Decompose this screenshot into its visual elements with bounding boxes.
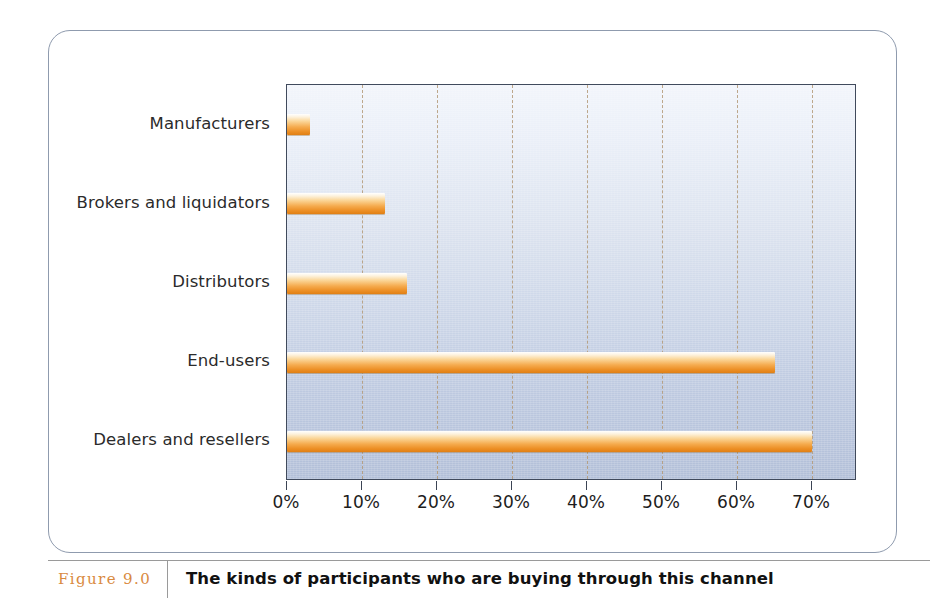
figure-caption: The kinds of participants who are buying… bbox=[186, 569, 774, 588]
x-tick-mark bbox=[661, 481, 662, 490]
gridline bbox=[737, 85, 738, 479]
bar bbox=[287, 431, 812, 452]
x-tick-label: 10% bbox=[326, 492, 396, 512]
x-tick-label: 40% bbox=[551, 492, 621, 512]
figure-number: Figure 9.0 bbox=[58, 570, 151, 588]
bar bbox=[287, 193, 385, 214]
caption-rule bbox=[48, 560, 930, 561]
bar-fill bbox=[287, 431, 812, 452]
x-tick-mark bbox=[511, 481, 512, 490]
category-label: Dealers and resellers bbox=[93, 430, 270, 449]
category-label: End-users bbox=[187, 351, 270, 370]
category-label: Manufacturers bbox=[150, 114, 270, 133]
category-label: Brokers and liquidators bbox=[77, 193, 270, 212]
x-tick-label: 50% bbox=[626, 492, 696, 512]
x-tick-label: 60% bbox=[701, 492, 771, 512]
category-label: Distributors bbox=[172, 272, 270, 291]
x-tick-mark bbox=[286, 481, 287, 490]
bar-fill bbox=[287, 352, 775, 373]
caption-divider bbox=[167, 561, 168, 598]
x-tick-mark bbox=[436, 481, 437, 490]
bar bbox=[287, 273, 407, 294]
x-tick-mark bbox=[361, 481, 362, 490]
gridline bbox=[812, 85, 813, 479]
x-tick-mark bbox=[586, 481, 587, 490]
plot-area bbox=[286, 84, 856, 480]
bar-fill bbox=[287, 193, 385, 214]
x-tick-mark bbox=[736, 481, 737, 490]
gridline bbox=[512, 85, 513, 479]
gridline bbox=[437, 85, 438, 479]
bar bbox=[287, 352, 775, 373]
bar-fill bbox=[287, 273, 407, 294]
gridline bbox=[662, 85, 663, 479]
x-tick-label: 0% bbox=[251, 492, 321, 512]
x-tick-label: 70% bbox=[776, 492, 846, 512]
x-tick-label: 30% bbox=[476, 492, 546, 512]
bar bbox=[287, 114, 310, 135]
bar-chart: ManufacturersBrokers and liquidatorsDist… bbox=[0, 0, 930, 553]
gridline bbox=[587, 85, 588, 479]
x-tick-label: 20% bbox=[401, 492, 471, 512]
x-tick-mark bbox=[811, 481, 812, 490]
bar-fill bbox=[287, 114, 310, 135]
